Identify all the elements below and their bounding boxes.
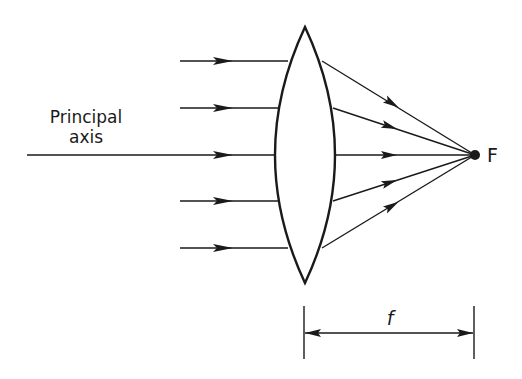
arrow-icon [381, 176, 399, 189]
incident-rays [27, 57, 288, 252]
focal-point-dot [470, 150, 480, 160]
refracted-ray-2 [333, 108, 475, 155]
principal-axis-label-line2: axis [69, 127, 103, 147]
refracted-ray-1 [322, 61, 475, 155]
focal-length-label: f [387, 307, 397, 329]
convex-lens [275, 27, 335, 283]
refracted-ray-5 [322, 155, 475, 248]
refracted-rays [322, 61, 475, 248]
arrow-icon [381, 120, 399, 133]
arrow-icon [383, 198, 401, 213]
principal-axis-label-line1: Principal [50, 107, 122, 127]
focal-point-label: F [487, 144, 498, 166]
lens-diagram: F Principal axis f [0, 0, 522, 379]
refracted-ray-4 [333, 155, 475, 201]
